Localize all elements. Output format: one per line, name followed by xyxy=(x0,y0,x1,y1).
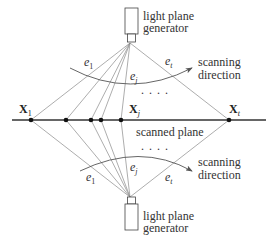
top-scanning-label-1: scanning xyxy=(198,55,241,69)
bottom-ray-label-et: et xyxy=(165,170,173,186)
top-ray-label-e1: e1 xyxy=(84,55,93,71)
top-scanning-label-2: direction xyxy=(198,68,241,82)
top-generator-label-2: generator xyxy=(143,21,188,35)
point-label-x1: X1 xyxy=(19,102,32,118)
light-plane-scanning-diagram: light plane generator scanning direction… xyxy=(0,0,275,241)
top-ellipsis: . . . . xyxy=(141,83,169,97)
top-ray-label-ej: ej xyxy=(130,69,138,85)
bottom-generator-label-2: generator xyxy=(143,221,188,235)
bottom-scanning-label-2: direction xyxy=(198,168,241,182)
bottom-light-plane-generator xyxy=(125,197,138,230)
top-ray-label-et: et xyxy=(165,54,173,70)
bottom-ellipsis: . . . . xyxy=(141,139,169,153)
point-label-xt: Xt xyxy=(229,102,241,118)
scanned-plane-label: scanned plane xyxy=(136,125,204,139)
point-label-xj: Xj xyxy=(129,102,141,118)
bottom-ray-label-ej: ej xyxy=(130,160,138,176)
bottom-scanning-label-1: scanning xyxy=(198,155,241,169)
top-light-plane-generator xyxy=(125,8,138,42)
bottom-ray-label-e1: e1 xyxy=(86,170,95,186)
